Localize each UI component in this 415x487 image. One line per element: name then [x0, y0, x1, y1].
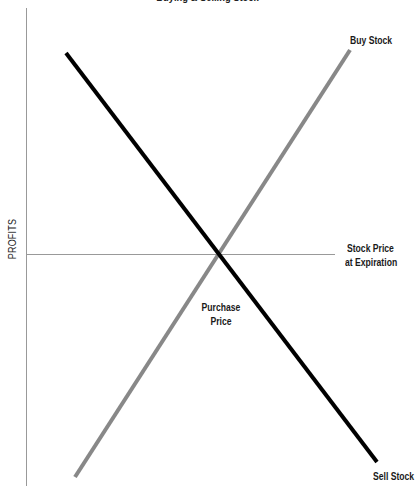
x-axis-label-line2: at Expiration	[345, 256, 397, 269]
sell-stock-line	[66, 53, 377, 462]
y-axis-label: PROFITS	[6, 217, 18, 261]
x-axis-label-line1: Stock Price	[347, 242, 394, 255]
purchase-price-label-line2: Price	[201, 315, 242, 328]
buy-stock-label: Buy Stock	[350, 34, 392, 47]
sell-stock-label: Sell Stock	[373, 470, 414, 483]
purchase-price-label-line1: Purchase	[201, 301, 242, 314]
payoff-chart: Buying & Selling Stock PROFITS Buy Stock…	[0, 0, 415, 487]
buy-stock-line	[75, 50, 350, 477]
